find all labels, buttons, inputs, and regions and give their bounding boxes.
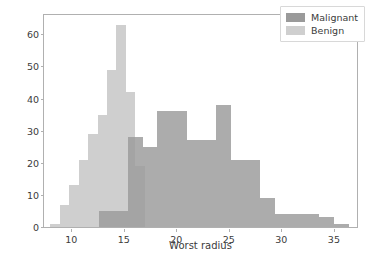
plot-area <box>44 15 357 227</box>
histogram-bar <box>334 224 349 227</box>
histogram-bar <box>319 217 334 227</box>
y-axis-tick-label: 10 <box>27 189 39 200</box>
legend-label-malignant: Malignant <box>311 12 358 23</box>
histogram-bar <box>99 211 114 227</box>
x-axis-tick <box>281 229 282 232</box>
histogram-bar <box>128 137 143 227</box>
legend-label-benign: Benign <box>311 25 344 36</box>
histogram-bar <box>157 111 172 227</box>
x-axis-tick <box>71 229 72 232</box>
y-axis-tick-label: 0 <box>33 222 39 233</box>
y-axis-tick-label: 20 <box>27 157 39 168</box>
histogram-bar <box>275 214 290 227</box>
histogram-bar <box>107 70 116 227</box>
histogram-bar <box>69 185 78 227</box>
y-axis-tick <box>41 227 44 228</box>
histogram-bar <box>113 211 128 227</box>
y-axis-tick <box>41 66 44 67</box>
legend-item-malignant: Malignant <box>286 11 358 24</box>
histogram-bar <box>290 214 305 227</box>
legend-swatch-benign <box>286 26 305 35</box>
histogram-bar <box>216 105 231 227</box>
histogram-figure: 1015202530350102030405060 Worst radius M… <box>0 0 371 267</box>
x-axis-label: Worst radius <box>43 240 358 251</box>
chart-legend: Malignant Benign <box>280 6 365 42</box>
histogram-bar <box>304 214 319 227</box>
histogram-bar <box>50 224 59 227</box>
y-axis-tick <box>41 34 44 35</box>
y-axis-tick-label: 50 <box>27 61 39 72</box>
y-axis-tick-label: 30 <box>27 125 39 136</box>
x-axis-tick <box>176 229 177 232</box>
histogram-bar <box>187 140 202 227</box>
y-axis-tick <box>41 131 44 132</box>
y-axis-tick <box>41 195 44 196</box>
histogram-bar <box>260 198 275 227</box>
histogram-bar <box>172 111 187 227</box>
histogram-bar <box>60 205 69 227</box>
histogram-bar <box>79 160 88 227</box>
y-axis-tick <box>41 163 44 164</box>
x-axis-tick <box>229 229 230 232</box>
plot-axes: 1015202530350102030405060 <box>43 14 358 228</box>
histogram-bar <box>88 134 97 227</box>
x-axis-tick <box>124 229 125 232</box>
histogram-bar <box>143 147 158 227</box>
y-axis-tick-label: 60 <box>27 29 39 40</box>
y-axis-tick-label: 40 <box>27 93 39 104</box>
legend-swatch-malignant <box>286 13 305 22</box>
histogram-bar <box>231 160 246 227</box>
histogram-bar <box>116 25 125 227</box>
y-axis-tick <box>41 99 44 100</box>
histogram-bar <box>246 160 261 227</box>
legend-item-benign: Benign <box>286 24 358 37</box>
histogram-bar <box>202 140 217 227</box>
x-axis-tick <box>334 229 335 232</box>
